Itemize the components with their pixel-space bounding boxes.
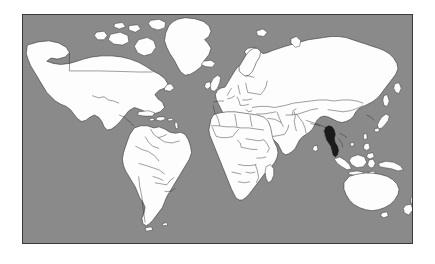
world-map [23,15,412,243]
map-frame [22,14,413,244]
region-hainan [350,142,354,146]
locator-map-figure [0,0,435,264]
region-taiwan [363,133,367,139]
region-japan-south [374,128,379,132]
region-puerto-rico [168,118,173,121]
region-jamaica [149,118,154,121]
